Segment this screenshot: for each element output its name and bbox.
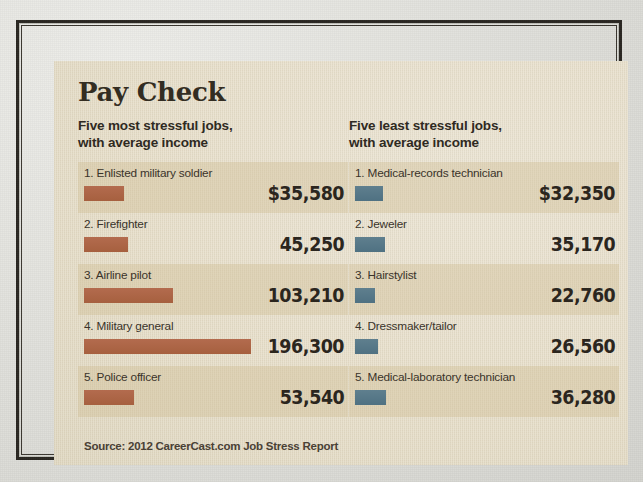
bar-line: 35,170 <box>349 232 619 258</box>
list-item: 4. Military general 196,300 <box>78 315 348 366</box>
bar-line: 103,210 <box>78 283 348 309</box>
list-item: 2. Jeweler 35,170 <box>349 213 619 264</box>
newspaper-page: Pay Check Five most stressful jobs, with… <box>0 0 643 482</box>
income-value: $35,580 <box>268 181 344 205</box>
income-bar <box>84 186 124 201</box>
bar-line: 45,250 <box>78 232 348 258</box>
column-subhead: Five most stressful jobs, with average i… <box>78 117 348 151</box>
income-bar <box>84 288 173 303</box>
income-bar <box>355 339 378 354</box>
job-label: 2. Jeweler <box>349 217 619 231</box>
list-item: 5. Medical-laboratory technician 36,280 <box>349 366 619 417</box>
bar-line: 196,300 <box>78 334 348 360</box>
job-list-least-stressful: 1. Medical-records technician $32,350 2.… <box>349 162 619 417</box>
job-label: 3. Hairstylist <box>349 268 619 282</box>
list-item: 4. Dressmaker/tailor 26,560 <box>349 315 619 366</box>
bar-line: 36,280 <box>349 385 619 411</box>
infographic-card: Pay Check Five most stressful jobs, with… <box>54 61 628 465</box>
job-label: 3. Airline pilot <box>78 268 348 282</box>
job-label: 4. Dressmaker/tailor <box>349 319 619 333</box>
income-value: 35,170 <box>550 232 615 256</box>
list-item: 5. Police officer 53,540 <box>78 366 348 417</box>
list-item: 2. Firefighter 45,250 <box>78 213 348 264</box>
bar-line: $32,350 <box>349 181 619 207</box>
income-value: 22,760 <box>550 283 615 307</box>
job-label: 1. Medical-records technician <box>349 166 619 180</box>
page-title: Pay Check <box>78 77 225 107</box>
bar-line: $35,580 <box>78 181 348 207</box>
job-label: 5. Police officer <box>78 370 348 384</box>
job-label: 4. Military general <box>78 319 348 333</box>
bar-line: 22,760 <box>349 283 619 309</box>
list-item: 1. Enlisted military soldier $35,580 <box>78 162 348 213</box>
income-bar <box>355 237 385 252</box>
income-bar <box>355 186 383 201</box>
income-value: 26,560 <box>550 334 615 358</box>
income-value: 53,540 <box>279 385 344 409</box>
source-citation: Source: 2012 CareerCast.com Job Stress R… <box>84 440 338 452</box>
column-subhead: Five least stressful jobs, with average … <box>349 117 619 151</box>
job-label: 1. Enlisted military soldier <box>78 166 348 180</box>
infographic-frame: Pay Check Five most stressful jobs, with… <box>16 20 622 460</box>
bar-line: 26,560 <box>349 334 619 360</box>
job-label: 5. Medical-laboratory technician <box>349 370 619 384</box>
column-least-stressful: Five least stressful jobs, with average … <box>349 117 619 417</box>
income-bar <box>84 390 134 405</box>
income-bar <box>84 237 128 252</box>
income-value: 36,280 <box>550 385 615 409</box>
income-value: $32,350 <box>539 181 615 205</box>
income-value: 196,300 <box>268 334 344 358</box>
job-list-most-stressful: 1. Enlisted military soldier $35,580 2. … <box>78 162 348 417</box>
job-label: 2. Firefighter <box>78 217 348 231</box>
income-value: 45,250 <box>279 232 344 256</box>
column-most-stressful: Five most stressful jobs, with average i… <box>78 117 348 417</box>
income-bar <box>84 339 251 354</box>
list-item: 3. Airline pilot 103,210 <box>78 264 348 315</box>
list-item: 1. Medical-records technician $32,350 <box>349 162 619 213</box>
bar-line: 53,540 <box>78 385 348 411</box>
income-value: 103,210 <box>268 283 344 307</box>
list-item: 3. Hairstylist 22,760 <box>349 264 619 315</box>
income-bar <box>355 288 375 303</box>
income-bar <box>355 390 386 405</box>
